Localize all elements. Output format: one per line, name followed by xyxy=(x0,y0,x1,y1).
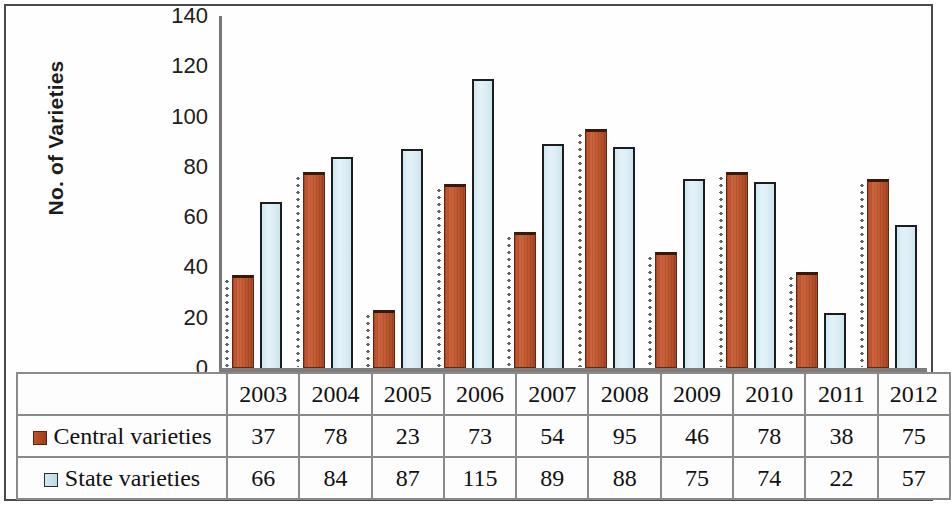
y-axis-tick-140: 140 xyxy=(126,5,208,27)
bar-state-2008 xyxy=(613,147,635,368)
table-cell: 23 xyxy=(372,415,444,457)
table-year-header-2005: 2005 xyxy=(372,373,444,415)
bar-state-2006 xyxy=(472,79,494,368)
table-cell: 115 xyxy=(444,457,516,499)
table-row: State varieties668487115898875742257 xyxy=(17,457,950,499)
table-cell: 22 xyxy=(805,457,877,499)
table-cell: 54 xyxy=(516,415,588,457)
table-cell: 88 xyxy=(588,457,660,499)
bar-state-2007 xyxy=(542,144,564,368)
y-axis-tick-80: 80 xyxy=(126,156,208,178)
table-cell: 73 xyxy=(444,415,516,457)
bars-plot-area xyxy=(222,16,927,368)
table-year-header-2012: 2012 xyxy=(878,373,950,415)
y-axis-tick-40: 40 xyxy=(126,256,208,278)
bar-state-2010 xyxy=(754,182,776,368)
table-row: Central varieties37782373549546783875 xyxy=(17,415,950,457)
table-corner-cell xyxy=(17,373,227,415)
bar-group-2004 xyxy=(293,16,364,368)
y-axis-tick-100: 100 xyxy=(126,106,208,128)
bar-state-2012 xyxy=(895,225,917,368)
legend-row-central: Central varieties xyxy=(17,415,227,457)
table-cell: 57 xyxy=(878,457,950,499)
table-cell: 78 xyxy=(733,415,805,457)
bar-group-2007 xyxy=(504,16,575,368)
table-cell: 75 xyxy=(878,415,950,457)
bar-state-2005 xyxy=(401,149,423,368)
data-table-container: 2003200420052006200720082009201020112012… xyxy=(16,372,927,499)
table-year-header-2009: 2009 xyxy=(661,373,733,415)
table-year-header-2006: 2006 xyxy=(444,373,516,415)
bar-group-2003 xyxy=(222,16,293,368)
bar-central-2008 xyxy=(585,129,607,368)
bar-state-2003 xyxy=(260,202,282,368)
table-cell: 87 xyxy=(372,457,444,499)
bar-state-2009 xyxy=(683,179,705,368)
bar-state-2011 xyxy=(824,313,846,368)
central-series-swatch-icon xyxy=(33,431,47,445)
bar-group-2005 xyxy=(363,16,434,368)
chart-data-table: 2003200420052006200720082009201020112012… xyxy=(16,372,951,500)
y-axis-title: No. of Varieties xyxy=(44,28,68,248)
legend-row-state: State varieties xyxy=(17,457,227,499)
table-cell: 37 xyxy=(227,415,299,457)
table-cell: 75 xyxy=(661,457,733,499)
bar-central-2007 xyxy=(514,232,536,368)
y-axis-tick-60: 60 xyxy=(126,206,208,228)
table-cell: 78 xyxy=(299,415,371,457)
plot-region: No. of Varieties 140120100806040200 xyxy=(6,6,931,372)
table-cell: 46 xyxy=(661,415,733,457)
bar-central-2012 xyxy=(867,179,889,368)
y-axis-tick-labels: 140120100806040200 xyxy=(126,6,208,372)
table-cell: 38 xyxy=(805,415,877,457)
legend-label: State varieties xyxy=(65,465,200,491)
state-series-swatch-icon xyxy=(44,473,58,487)
bar-central-2009 xyxy=(655,252,677,368)
bar-central-2003 xyxy=(232,275,254,368)
y-axis-tick-20: 20 xyxy=(126,307,208,329)
table-cell: 66 xyxy=(227,457,299,499)
bar-central-2010 xyxy=(726,172,748,368)
table-cell: 89 xyxy=(516,457,588,499)
table-year-header-2008: 2008 xyxy=(588,373,660,415)
table-year-header-2004: 2004 xyxy=(299,373,371,415)
table-cell: 84 xyxy=(299,457,371,499)
table-year-header-2007: 2007 xyxy=(516,373,588,415)
figure-inner: No. of Varieties 140120100806040200 2003… xyxy=(6,6,931,499)
bar-group-2009 xyxy=(645,16,716,368)
table-year-header-2003: 2003 xyxy=(227,373,299,415)
bar-group-2011 xyxy=(786,16,857,368)
bar-group-2006 xyxy=(434,16,505,368)
bar-central-2006 xyxy=(444,184,466,368)
table-cell: 95 xyxy=(588,415,660,457)
y-axis-tick-120: 120 xyxy=(126,55,208,77)
table-year-header-2011: 2011 xyxy=(805,373,877,415)
bar-group-2012 xyxy=(857,16,928,368)
table-header-row: 2003200420052006200720082009201020112012 xyxy=(17,373,950,415)
bar-group-2008 xyxy=(575,16,646,368)
table-year-header-2010: 2010 xyxy=(733,373,805,415)
figure-frame: No. of Varieties 140120100806040200 2003… xyxy=(4,4,933,501)
bar-group-2010 xyxy=(716,16,787,368)
bar-state-2004 xyxy=(331,157,353,368)
bar-central-2005 xyxy=(373,310,395,368)
legend-label: Central varieties xyxy=(54,423,212,449)
bar-central-2011 xyxy=(796,272,818,368)
table-cell: 74 xyxy=(733,457,805,499)
bar-central-2004 xyxy=(303,172,325,368)
